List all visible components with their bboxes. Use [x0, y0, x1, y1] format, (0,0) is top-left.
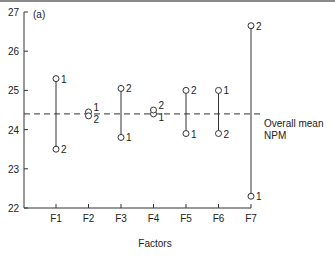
- level-label: 1: [191, 129, 197, 140]
- data-point-marker: [183, 87, 189, 93]
- axes: 222324252627F1F2F3F4F5F6F7: [8, 7, 257, 224]
- x-tick-label: F5: [180, 213, 192, 224]
- y-tick-label: 27: [8, 7, 20, 18]
- x-tick-label: F7: [245, 213, 257, 224]
- panel-label: (a): [33, 9, 45, 20]
- main-effects-chart: 222324252627F1F2F3F4F5F6F7 1212121212121…: [0, 0, 335, 262]
- y-tick-label: 22: [8, 203, 20, 214]
- mean-line-label: Overall mean: [264, 118, 323, 129]
- y-tick-label: 26: [8, 46, 20, 57]
- x-tick-label: F2: [83, 213, 95, 224]
- x-tick-label: F4: [148, 213, 160, 224]
- x-tick-label: F3: [115, 213, 127, 224]
- level-label: 2: [94, 114, 100, 125]
- data-point-marker: [151, 107, 157, 113]
- data-point-marker: [53, 146, 59, 152]
- data-point-marker: [118, 85, 124, 91]
- level-label: 1: [126, 132, 132, 143]
- level-label: 2: [126, 83, 132, 94]
- plot-area: 12121212121212: [24, 21, 262, 203]
- data-point-marker: [216, 87, 222, 93]
- level-label: 2: [191, 85, 197, 96]
- mean-line-label-npm: NPM: [264, 130, 286, 141]
- data-point-marker: [53, 76, 59, 82]
- data-point-marker: [248, 23, 254, 29]
- level-label: 2: [224, 129, 230, 140]
- x-tick-label: F6: [213, 213, 225, 224]
- level-label: 2: [256, 21, 262, 32]
- data-point-marker: [216, 131, 222, 137]
- level-label: 2: [61, 144, 67, 155]
- level-label: 1: [94, 102, 100, 113]
- x-tick-label: F1: [50, 213, 62, 224]
- level-label: 1: [224, 85, 230, 96]
- x-axis-label: Factors: [138, 238, 171, 249]
- y-tick-label: 24: [8, 125, 20, 136]
- data-point-marker: [118, 134, 124, 140]
- level-label: 1: [61, 74, 67, 85]
- level-label: 1: [159, 112, 165, 123]
- y-tick-label: 25: [8, 85, 20, 96]
- data-point-marker: [183, 131, 189, 137]
- y-tick-label: 23: [8, 164, 20, 175]
- data-point-marker: [86, 113, 92, 119]
- data-point-marker: [248, 193, 254, 199]
- level-label: 1: [256, 191, 262, 202]
- level-label: 2: [159, 100, 165, 111]
